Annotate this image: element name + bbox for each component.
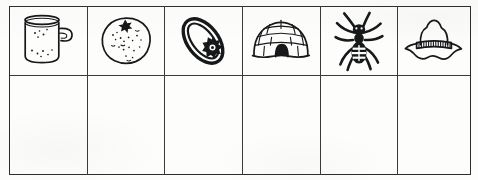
grid-divider-v3	[242, 6, 243, 175]
answer-cell-5[interactable]	[320, 75, 397, 175]
grid-border-bottom	[9, 174, 471, 175]
grid-divider-v1	[87, 6, 88, 175]
answer-cell-4[interactable]	[242, 75, 320, 175]
answer-cell-3[interactable]	[164, 75, 242, 175]
grid-divider-v2	[164, 6, 165, 175]
answer-cell-2[interactable]	[87, 75, 164, 175]
picture-cell-ant[interactable]	[320, 6, 397, 75]
hat-icon	[402, 16, 466, 66]
grid-divider-v5	[397, 6, 398, 175]
grid-border-left	[9, 6, 10, 175]
picture-cell-hat[interactable]	[397, 6, 471, 75]
answer-cell-6[interactable]	[397, 75, 471, 175]
answer-row	[9, 75, 471, 175]
answer-cell-1[interactable]	[9, 75, 87, 175]
answer-value-1[interactable]	[9, 75, 87, 175]
grid-divider-v4	[320, 6, 321, 175]
answer-value-5[interactable]	[320, 75, 397, 175]
picture-cell-mug[interactable]	[9, 6, 87, 75]
picture-cell-orange[interactable]	[87, 6, 164, 75]
ring-icon	[172, 12, 234, 70]
orange-fruit-icon	[98, 14, 154, 68]
answer-value-4[interactable]	[242, 75, 320, 175]
igloo-icon	[250, 16, 312, 66]
picture-cell-igloo[interactable]	[242, 6, 320, 75]
picture-row	[9, 6, 471, 75]
mug-icon	[18, 12, 78, 70]
ant-insect-icon	[330, 10, 388, 72]
grid-border-top	[9, 6, 471, 7]
answer-value-3[interactable]	[164, 75, 242, 175]
picture-grid-table	[9, 6, 471, 175]
grid-border-right	[470, 6, 471, 175]
worksheet-page	[0, 0, 478, 180]
answer-value-6[interactable]	[397, 75, 471, 175]
picture-cell-ring[interactable]	[164, 6, 242, 75]
answer-value-2[interactable]	[87, 75, 164, 175]
grid-divider-horizontal	[9, 75, 471, 76]
